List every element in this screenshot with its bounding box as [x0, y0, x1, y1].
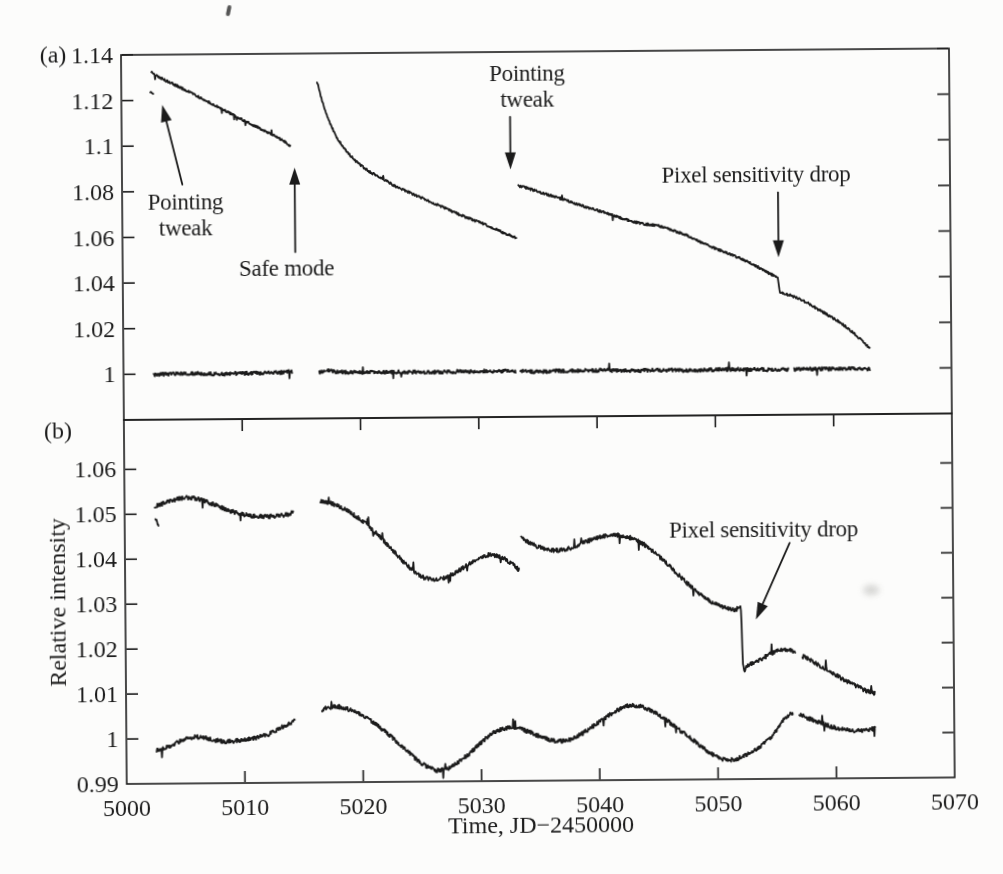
- figure: (a) (b) Relative intensity Time, JD−2450…: [0, 0, 1003, 874]
- y-tick-label-b: 1.02: [42, 636, 118, 663]
- x-tick-label: 5070: [910, 788, 1000, 815]
- annotation-a-2: Pointing tweak: [387, 59, 667, 113]
- x-tick-label: 5030: [437, 792, 527, 819]
- panel-b-label: (b): [36, 417, 80, 443]
- y-tick-label-b: 1.04: [41, 546, 117, 573]
- x-tick-label: 5020: [318, 793, 408, 820]
- x-tick-label: 5050: [673, 790, 763, 817]
- annotation-b-0: Pixel sensitivity drop: [623, 515, 903, 543]
- x-tick-label: 5040: [555, 791, 645, 818]
- x-tick-label: 5010: [200, 794, 290, 821]
- scan-smudge: [863, 585, 879, 595]
- annotation-a-0: Pointing tweak: [45, 188, 325, 242]
- y-tick-label-b: 1.06: [40, 456, 116, 483]
- y-tick-label-b: 1: [42, 726, 118, 753]
- y-tick-label-a: 1.14: [37, 42, 113, 69]
- y-tick-label-a: 1.1: [38, 133, 114, 160]
- light-curve-canvas: [0, 0, 1003, 874]
- y-tick-label-a: 1.12: [37, 88, 113, 115]
- x-tick-label: 5060: [791, 789, 881, 816]
- y-tick-label-b: 1.01: [42, 681, 118, 708]
- y-tick-label-b: 0.99: [43, 771, 119, 798]
- y-tick-label-a: 1.04: [39, 270, 115, 297]
- annotation-a-1: Safe mode: [146, 255, 426, 283]
- y-tick-label-a: 1.02: [39, 316, 115, 343]
- y-tick-label-b: 1.05: [41, 501, 117, 528]
- x-tick-label: 5000: [82, 795, 172, 822]
- y-tick-label-a: 1: [39, 361, 115, 388]
- y-tick-label-b: 1.03: [41, 591, 117, 618]
- annotation-a-3: Pixel sensitivity drop: [616, 161, 896, 189]
